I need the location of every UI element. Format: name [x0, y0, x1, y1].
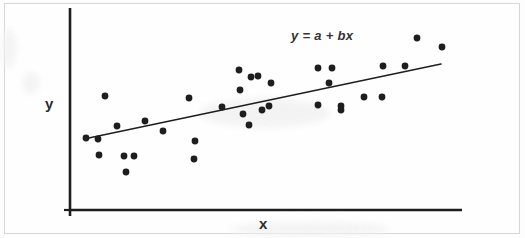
x-axis-label: x — [259, 216, 267, 231]
data-point — [315, 65, 322, 72]
data-point — [329, 65, 336, 72]
data-point — [315, 102, 322, 109]
data-point — [95, 136, 102, 143]
data-point — [268, 80, 275, 87]
data-point — [259, 107, 266, 114]
plot-area — [0, 0, 525, 238]
data-point — [96, 152, 103, 159]
data-point — [379, 94, 386, 101]
regression-line-segment — [84, 64, 441, 139]
data-point — [266, 103, 273, 110]
chart-canvas — [0, 0, 525, 238]
data-point — [255, 73, 262, 80]
data-point — [326, 80, 333, 87]
data-point — [439, 44, 446, 51]
data-point — [192, 138, 199, 145]
data-point — [114, 123, 121, 130]
data-point — [102, 93, 109, 100]
data-point — [236, 67, 243, 74]
regression-equation-label: y = a + bx — [291, 28, 353, 43]
data-point — [142, 118, 149, 125]
data-points-group — [83, 35, 446, 176]
y-axis-label: y — [45, 96, 53, 111]
data-point — [361, 94, 368, 101]
data-point — [219, 104, 226, 111]
data-point — [246, 122, 253, 129]
data-point — [123, 169, 130, 176]
data-point — [160, 128, 167, 135]
data-point — [121, 153, 128, 160]
data-point — [338, 107, 345, 114]
data-point — [186, 95, 193, 102]
data-point — [83, 135, 90, 142]
data-point — [414, 35, 421, 42]
data-point — [402, 63, 409, 70]
data-point — [191, 156, 198, 163]
data-point — [237, 87, 244, 94]
data-point — [240, 111, 247, 118]
data-point — [131, 153, 138, 160]
data-point — [248, 74, 255, 81]
scatter-plot-figure: y x y = a + bx — [0, 0, 525, 238]
data-point — [380, 63, 387, 70]
regression-line — [84, 64, 441, 139]
